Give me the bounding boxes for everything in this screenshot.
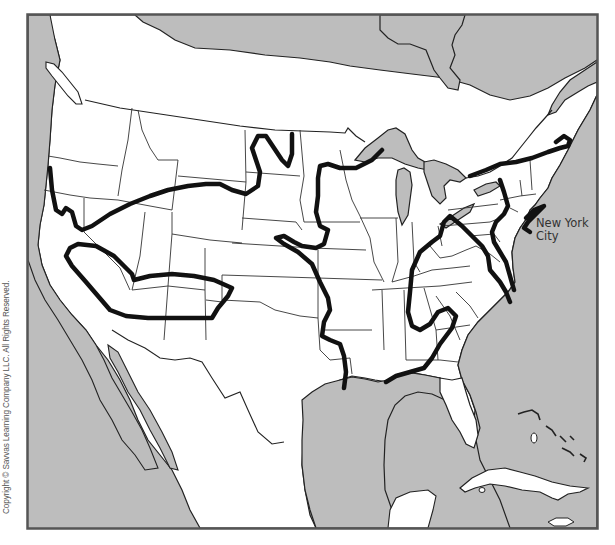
copyright-notice: Copyright © Savvas Learning Company LLC.… [2, 281, 11, 514]
map-figure [0, 0, 615, 545]
isle-of-youth [479, 488, 485, 493]
us-outline-map [0, 0, 615, 545]
new-york-city-label: New York City [536, 217, 589, 243]
andros-island [531, 433, 537, 443]
city-label-line2: City [536, 230, 589, 243]
